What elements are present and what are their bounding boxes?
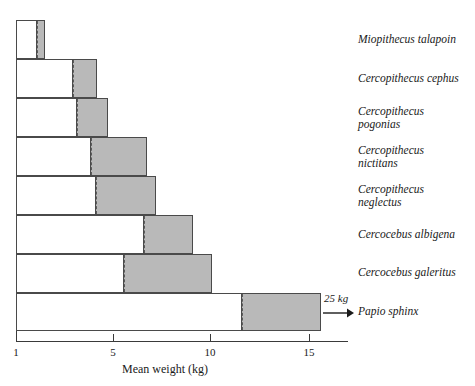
bar-open-5[interactable] xyxy=(16,176,96,215)
bar-shaded-8[interactable] xyxy=(242,293,321,331)
bar-divider-8 xyxy=(242,294,243,330)
x-tick-label-10: 10 xyxy=(199,346,221,358)
species-label-cercopithecus-cephus: Cercopithecus cephus xyxy=(358,72,473,85)
bar-open-7[interactable] xyxy=(16,254,124,293)
species-label-cercocebus-albigena: Cercocebus albigena xyxy=(358,228,473,241)
bar-shaded-1[interactable] xyxy=(37,20,45,59)
species-label-cercopithecus-pogonias: Cercopithecus pogonias xyxy=(358,105,473,131)
bar-shaded-3[interactable] xyxy=(77,98,108,137)
bar-open-8[interactable] xyxy=(16,293,242,331)
bar-divider-4 xyxy=(91,138,92,175)
species-label-cercocebus-galeritus: Cercocebus galeritus xyxy=(358,266,473,279)
bar-divider-5 xyxy=(96,177,97,214)
bar-divider-2 xyxy=(73,60,74,97)
x-tick-15 xyxy=(309,334,310,341)
arrow-right-icon xyxy=(323,305,355,323)
weight-bar-chart: 1 5 10 15 Mean weight (kg) Miopithecus t… xyxy=(0,0,475,386)
x-tick-1 xyxy=(16,334,17,341)
bar-shaded-4[interactable] xyxy=(91,137,147,176)
x-axis-title: Mean weight (kg) xyxy=(105,362,225,377)
bar-open-4[interactable] xyxy=(16,137,91,176)
x-tick-5 xyxy=(113,334,114,341)
bar-divider-3 xyxy=(77,99,78,136)
x-tick-label-5: 5 xyxy=(103,346,123,358)
species-label-papio-sphinx: Papio sphinx xyxy=(358,305,473,318)
species-label-cercopithecus-neglectus: Cercopithecus neglectus xyxy=(358,183,473,209)
bar-shaded-6[interactable] xyxy=(144,215,193,254)
bar-open-1[interactable] xyxy=(16,20,37,59)
bar-shaded-2[interactable] xyxy=(73,59,97,98)
bar-divider-6 xyxy=(144,216,145,253)
species-label-cercopithecus-nictitans: Cercopithecus nictitans xyxy=(358,144,473,170)
x-tick-10 xyxy=(210,334,211,341)
annotation-value-label: 25 kg xyxy=(324,292,348,304)
bar-open-6[interactable] xyxy=(16,215,144,254)
species-label-miopithecus-talapoin: Miopithecus talapoin xyxy=(358,33,473,46)
axis-x-line xyxy=(16,341,348,342)
x-tick-label-1: 1 xyxy=(6,346,26,358)
bar-shaded-5[interactable] xyxy=(96,176,156,215)
bar-divider-7 xyxy=(124,255,125,292)
bar-divider-1 xyxy=(37,21,38,58)
bar-open-3[interactable] xyxy=(16,98,77,137)
x-tick-label-15: 15 xyxy=(298,346,320,358)
bar-shaded-7[interactable] xyxy=(124,254,212,293)
plot-area: 1 5 10 15 Mean weight (kg) Miopithecus t… xyxy=(0,0,475,386)
bar-open-2[interactable] xyxy=(16,59,73,98)
